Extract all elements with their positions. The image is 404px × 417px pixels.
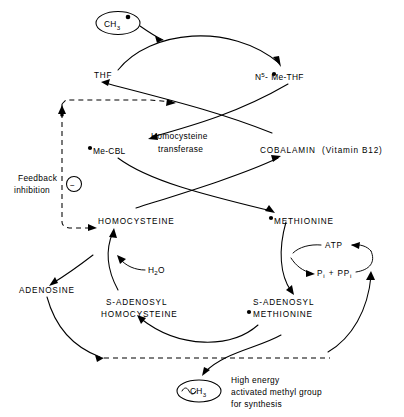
thf-to-n5methf-arrowhead [273,56,281,67]
feedback-dashed-horizontal [62,100,172,104]
to-adenosine-curve [53,255,93,283]
feedback-label-line2: inhibition [14,185,50,195]
baseline-to-atp-arrowhead [366,271,375,280]
feedback-to-homocysteine-arrowhead [88,224,97,231]
cobalamin-to-thf-arrowhead [101,79,110,86]
ppi-recycle-curve [356,251,373,272]
me-cbl-label: Me-CBL [93,146,126,156]
feedback-label-line1: Feedback [18,173,58,183]
pi-ppi-label: Pi + PPi [317,269,352,279]
n5-me-thf-label: N5-Me-THF [255,71,304,82]
atp-input-curve [293,245,321,253]
homocysteine-label: HOMOCYSTEINE [98,217,175,226]
pi-ppi-output-arrowhead [306,270,315,277]
water-label: H2O [148,265,165,276]
pi-ppi-output-curve [291,258,311,273]
homocysteine-to-cobalamin-curve [136,158,278,208]
cobalamin-to-thf-curve [105,83,272,133]
adenosine-to-baseline-arrowhead [95,355,104,362]
ch3-to-arc-curve [140,26,163,40]
sam-to-product-curve [205,335,281,372]
feedback-minus-sign: − [70,180,75,190]
product-label: CH3 [190,386,207,398]
enzyme-label-line2: transferase [158,144,203,154]
sam-to-sah-curve [140,318,258,342]
thf-label: THF [94,71,112,80]
water-input-arrowhead [117,255,126,264]
sah-label-line2: HOMOCYSTEINE [101,310,178,319]
to-adenosine-arrowhead [49,277,58,286]
feedback-up-arrowhead [58,105,66,114]
methionine-label: METHIONINE [274,217,334,226]
atp-label: ATP [325,241,343,250]
pathway-diagram: CH3 THF N5-Me-THF Me-CBL COBALAMIN (Vita… [0,0,404,417]
sam-isotope-dot [247,310,251,314]
adenosine-to-baseline-curve [47,297,100,357]
sah-label-line1: S-ADENOSYL [106,298,167,307]
thf-to-n5methf-curve [118,36,279,70]
product-note-line3: for synthesis [231,399,282,409]
methionine-to-sam-arrowhead [286,285,294,295]
cobalamin-label: COBALAMIN (Vitamin B12) [260,146,383,155]
sam-label-line2: METHIONINE [253,310,313,319]
ch3-source-label: CH3 [104,19,121,31]
sah-to-homocysteine-arrowhead [109,228,117,238]
n5methf-to-mecbl-curve [152,84,288,137]
adenosine-label: ADENOSINE [19,286,75,295]
feedback-dashed-vertical [62,104,93,228]
enzyme-label-line1: Homocysteine [151,131,208,141]
me-cbl-isotope-dot [88,146,92,150]
methionine-isotope-dot [269,216,273,220]
sam-label-line1: S-ADENOSYL [253,298,314,307]
sah-to-homocysteine-curve [108,232,118,290]
mecbl-to-methionine-arrowhead [265,205,275,213]
product-note-line1: High energy [231,375,280,385]
ch3-source-isotope-dot [126,15,131,20]
baseline-to-atp-curve [328,276,371,352]
product-note-line2: activated methyl group [231,387,322,397]
methionine-to-sam-curve [281,222,291,291]
atp-recycle-arrowhead [351,242,360,249]
n5-me-thf-isotope-dot [272,72,276,76]
mecbl-to-methionine-curve [118,158,271,211]
pathway-canvas: CH3 THF N5-Me-THF Me-CBL COBALAMIN (Vita… [0,0,404,417]
